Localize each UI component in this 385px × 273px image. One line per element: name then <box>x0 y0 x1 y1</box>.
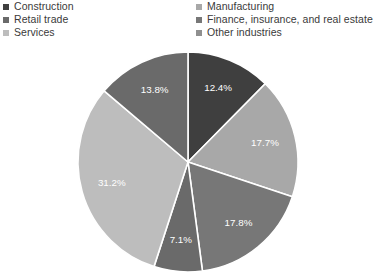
pie-slice-label: 17.8% <box>225 217 253 228</box>
pie-slice-label: 7.1% <box>170 234 193 245</box>
pie-slice-label: 31.2% <box>98 177 126 188</box>
pie-slice-label: 17.7% <box>251 137 279 148</box>
pie-chart-figure: Construction Retail trade Services Manuf… <box>0 0 385 273</box>
pie-slice-label: 13.8% <box>141 84 169 95</box>
pie-plot-area: 12.4%17.7%17.8%7.1%31.2%13.8% <box>0 0 385 273</box>
pie-svg: 12.4%17.7%17.8%7.1%31.2%13.8% <box>0 0 385 273</box>
pie-slice-label: 12.4% <box>204 82 232 93</box>
